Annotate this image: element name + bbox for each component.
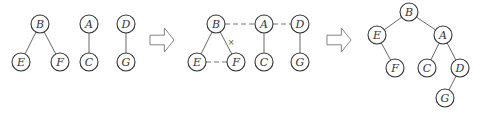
remove-mark-icon: × bbox=[228, 38, 235, 47]
node-a: A bbox=[80, 15, 98, 33]
transform-arrow-icon bbox=[150, 28, 174, 52]
node-g: G bbox=[291, 53, 309, 71]
node-f: F bbox=[386, 59, 404, 77]
node-label: G bbox=[122, 56, 131, 69]
node-label: F bbox=[231, 56, 240, 69]
node-label: B bbox=[404, 6, 413, 19]
node-e: E bbox=[188, 53, 206, 71]
node-d: D bbox=[451, 59, 469, 77]
edge-b-e bbox=[201, 32, 212, 54]
node-label: B bbox=[35, 18, 44, 31]
node-c: C bbox=[418, 59, 436, 77]
node-label: F bbox=[55, 56, 64, 69]
node-c: C bbox=[255, 53, 273, 71]
node-label: E bbox=[16, 56, 25, 69]
node-label: A bbox=[84, 18, 93, 31]
node-label: D bbox=[121, 18, 131, 31]
node-label: B bbox=[211, 18, 220, 31]
edge-b-a bbox=[416, 17, 435, 30]
node-label: D bbox=[295, 18, 305, 31]
node-label: C bbox=[85, 56, 94, 69]
node-label: A bbox=[438, 29, 447, 42]
node-label: G bbox=[441, 92, 450, 105]
node-label: C bbox=[423, 62, 432, 75]
node-b: B bbox=[31, 15, 49, 33]
edge-b-e bbox=[25, 32, 36, 54]
edge-e-f bbox=[381, 43, 390, 60]
node-label: G bbox=[296, 56, 305, 69]
transform-arrow-icon bbox=[327, 28, 351, 52]
node-d: D bbox=[291, 15, 309, 33]
node-label: F bbox=[390, 62, 399, 75]
edge-b-e bbox=[384, 17, 401, 29]
node-b: B bbox=[400, 3, 418, 21]
node-e: E bbox=[12, 53, 30, 71]
node-label: C bbox=[260, 56, 269, 69]
node-f: F bbox=[227, 53, 245, 71]
edge-d-g bbox=[449, 76, 456, 90]
node-label: E bbox=[372, 29, 381, 42]
node-label: E bbox=[192, 56, 201, 69]
diagram-canvas: × BEFACDGBEFACDGBEAFCDG bbox=[0, 0, 483, 116]
node-label: A bbox=[259, 18, 268, 31]
node-c: C bbox=[80, 53, 98, 71]
node-b: B bbox=[207, 15, 225, 33]
marks-layer: × bbox=[228, 38, 235, 47]
node-d: D bbox=[117, 15, 135, 33]
node-g: G bbox=[436, 89, 454, 107]
arrows-layer bbox=[150, 28, 351, 52]
edge-a-d bbox=[447, 43, 456, 60]
node-g: G bbox=[117, 53, 135, 71]
node-f: F bbox=[51, 53, 69, 71]
edge-a-c bbox=[431, 43, 439, 60]
node-a: A bbox=[255, 15, 273, 33]
node-label: D bbox=[455, 62, 465, 75]
node-e: E bbox=[368, 26, 386, 44]
node-a: A bbox=[434, 26, 452, 44]
edge-b-f bbox=[44, 32, 56, 54]
